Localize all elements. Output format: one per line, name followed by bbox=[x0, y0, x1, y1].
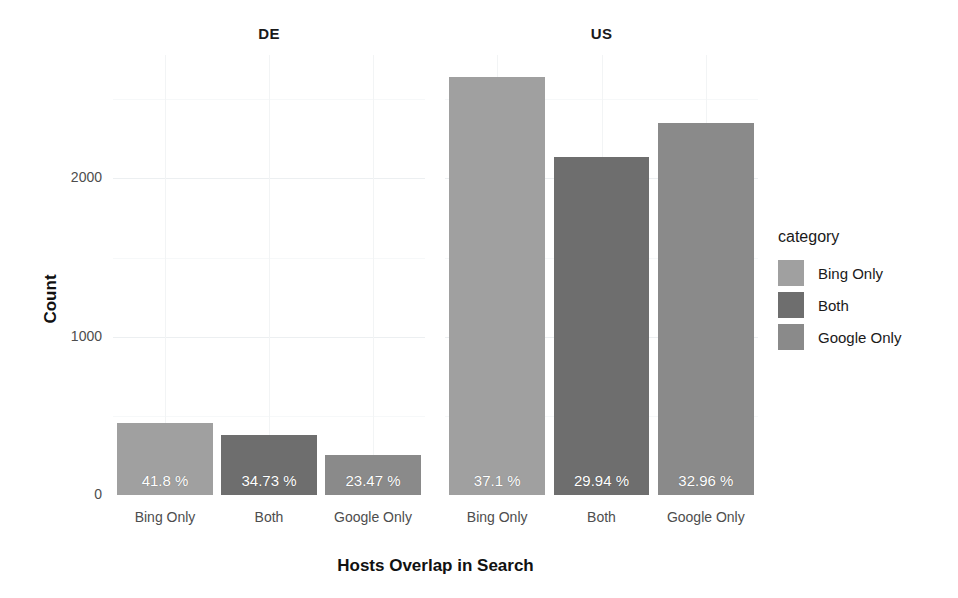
bar[interactable]: 34.73 % bbox=[221, 435, 317, 495]
bar-value-label: 32.96 % bbox=[658, 472, 754, 489]
x-tick-label: Bing Only bbox=[437, 509, 557, 525]
y-axis-title: Count bbox=[41, 274, 61, 323]
facet-panel-de: DE 41.8 %34.73 %23.47 % bbox=[113, 55, 425, 495]
bar-fill bbox=[554, 157, 650, 495]
bar-value-label: 29.94 % bbox=[554, 472, 650, 489]
legend-item[interactable]: Bing Only bbox=[778, 258, 953, 288]
y-tick-2000: 2000 bbox=[40, 169, 102, 185]
y-tick-0: 0 bbox=[40, 486, 102, 502]
plot-area: DE 41.8 %34.73 %23.47 % US 37.1 %29.94 %… bbox=[113, 55, 758, 495]
bar-fill bbox=[449, 77, 545, 495]
legend-item-label: Bing Only bbox=[818, 265, 883, 282]
facet-strip-de: DE bbox=[113, 25, 425, 42]
legend-title: category bbox=[778, 228, 953, 246]
legend-item[interactable]: Google Only bbox=[778, 322, 953, 352]
bar[interactable]: 37.1 % bbox=[449, 77, 545, 495]
facet-strip-us: US bbox=[445, 25, 758, 42]
facet-panel-us: US 37.1 %29.94 %32.96 % bbox=[445, 55, 758, 495]
legend: category Bing OnlyBothGoogle Only bbox=[778, 228, 953, 354]
x-tick-label: Both bbox=[542, 509, 662, 525]
x-tick-label: Bing Only bbox=[105, 509, 225, 525]
bar-group-de: 41.8 %34.73 %23.47 % bbox=[113, 55, 425, 495]
chart-root: Count 200010000 DE 41.8 %34.73 %23.47 % … bbox=[0, 0, 958, 598]
legend-item-label: Google Only bbox=[818, 329, 901, 346]
legend-color-swatch bbox=[778, 260, 804, 286]
legend-items: Bing OnlyBothGoogle Only bbox=[778, 258, 953, 352]
x-axis-title: Hosts Overlap in Search bbox=[113, 556, 758, 576]
bar-fill bbox=[658, 123, 754, 495]
bar[interactable]: 29.94 % bbox=[554, 157, 650, 495]
bar-group-us: 37.1 %29.94 %32.96 % bbox=[445, 55, 758, 495]
bar[interactable]: 23.47 % bbox=[325, 455, 421, 495]
bar-value-label: 23.47 % bbox=[325, 472, 421, 489]
bar-value-label: 34.73 % bbox=[221, 472, 317, 489]
bar-value-label: 37.1 % bbox=[449, 472, 545, 489]
legend-color-swatch bbox=[778, 292, 804, 318]
bar[interactable]: 41.8 % bbox=[117, 423, 213, 495]
x-tick-label: Google Only bbox=[313, 509, 433, 525]
bar[interactable]: 32.96 % bbox=[658, 123, 754, 495]
x-tick-label: Both bbox=[209, 509, 329, 525]
facet-gap bbox=[425, 55, 445, 495]
legend-item[interactable]: Both bbox=[778, 290, 953, 320]
y-tick-1000: 1000 bbox=[40, 328, 102, 344]
legend-item-label: Both bbox=[818, 297, 849, 314]
bar-value-label: 41.8 % bbox=[117, 472, 213, 489]
legend-color-swatch bbox=[778, 324, 804, 350]
x-tick-label: Google Only bbox=[646, 509, 766, 525]
